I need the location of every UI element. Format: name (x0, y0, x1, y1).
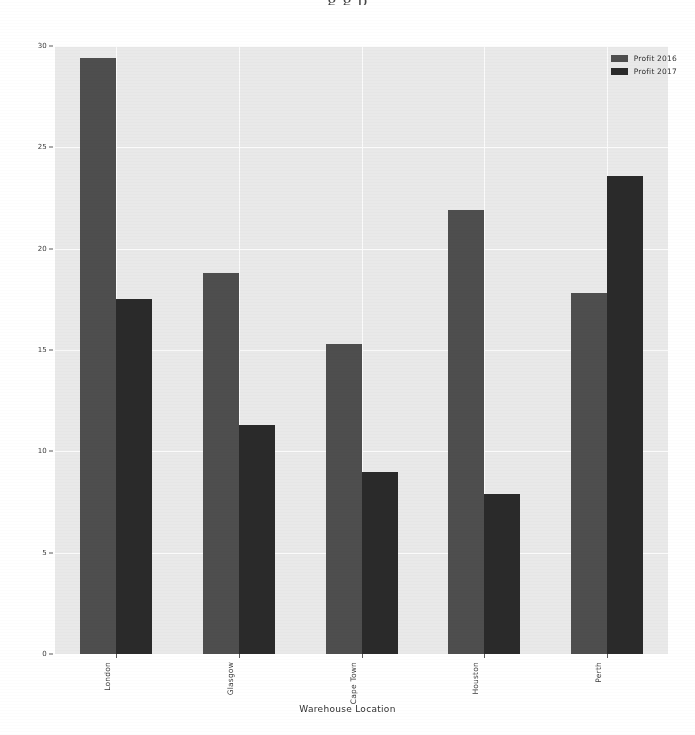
plot-area (55, 46, 668, 654)
legend-swatch-icon (611, 68, 628, 75)
bar-london-profit-2017[interactable] (116, 299, 152, 654)
y-axis: 051015202530 (0, 0, 55, 735)
bar-cape-town-profit-2017[interactable] (362, 472, 398, 654)
bar-london-profit-2016[interactable] (80, 58, 116, 654)
x-axis-tick-mark (116, 654, 117, 658)
x-axis-tick-label-houston: Houston (471, 662, 480, 695)
bar-perth-profit-2016[interactable] (571, 293, 607, 654)
bar-chart-figure: 051015202530 Profit 2016Profit 2017 Ware… (0, 0, 695, 735)
y-axis-tick-mark (49, 654, 53, 655)
y-axis-tick-label: 0 (42, 650, 47, 658)
x-axis-label: Warehouse Location (0, 704, 695, 714)
x-axis-tick-label-london: London (103, 662, 112, 691)
legend-swatch-icon (611, 55, 628, 62)
legend-label: Profit 2017 (634, 67, 677, 76)
x-axis-tick-mark (484, 654, 485, 658)
x-axis-tick-label-cape-town: Cape Town (348, 662, 357, 704)
legend-label: Profit 2016 (634, 54, 677, 63)
x-axis-tick-mark (362, 654, 363, 658)
y-axis-tick-label: 25 (38, 143, 47, 151)
legend-item[interactable]: Profit 2016 (611, 54, 677, 63)
y-axis-tick-label: 15 (38, 346, 47, 354)
x-axis-tick-mark (607, 654, 608, 658)
y-axis-tick-label: 5 (42, 549, 47, 557)
bar-cape-town-profit-2016[interactable] (326, 344, 362, 654)
y-axis-tick-mark (49, 552, 53, 553)
bar-glasgow-profit-2017[interactable] (239, 425, 275, 654)
y-axis-tick-mark (49, 46, 53, 47)
y-axis-tick-mark (49, 350, 53, 351)
y-axis-tick-mark (49, 147, 53, 148)
y-axis-tick-label: 10 (38, 447, 47, 455)
bar-houston-profit-2016[interactable] (448, 210, 484, 654)
y-axis-tick-label: 30 (38, 42, 47, 50)
bar-perth-profit-2017[interactable] (607, 176, 643, 654)
x-axis-tick-mark (239, 654, 240, 658)
bar-houston-profit-2017[interactable] (484, 494, 520, 654)
y-axis-tick-mark (49, 248, 53, 249)
y-axis-tick-mark (49, 451, 53, 452)
x-axis-tick-label-perth: Perth (593, 662, 602, 683)
chart-legend: Profit 2016Profit 2017 (611, 54, 677, 76)
bar-glasgow-profit-2016[interactable] (203, 273, 239, 654)
y-axis-tick-label: 20 (38, 245, 47, 253)
x-axis-tick-label-glasgow: Glasgow (225, 662, 234, 695)
legend-item[interactable]: Profit 2017 (611, 67, 677, 76)
